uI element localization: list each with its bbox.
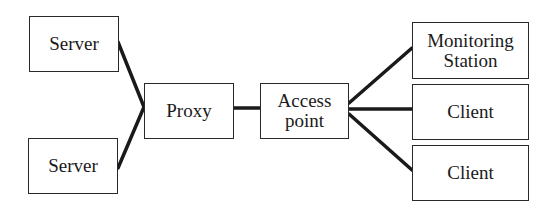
node-label: Server <box>48 156 98 176</box>
edge-server1-proxy <box>118 42 144 107</box>
node-label: Server <box>49 34 99 54</box>
edge-accesspoint-monitoring <box>349 48 412 103</box>
node-server-1: Server <box>29 16 119 72</box>
node-label: Client <box>447 102 493 122</box>
node-client-1: Client <box>412 84 529 140</box>
edge-server2-proxy <box>118 107 144 168</box>
node-proxy: Proxy <box>144 83 234 139</box>
node-label: Client <box>447 163 493 183</box>
node-label: Monitoring Station <box>413 31 528 71</box>
node-label: Access point <box>267 91 342 131</box>
edge-accesspoint-client2 <box>349 114 412 170</box>
node-server-2: Server <box>28 138 118 194</box>
node-monitoring-station: Monitoring Station <box>412 22 529 79</box>
node-label: Proxy <box>166 101 211 121</box>
node-client-2: Client <box>412 145 529 201</box>
node-access-point: Access point <box>260 83 349 139</box>
